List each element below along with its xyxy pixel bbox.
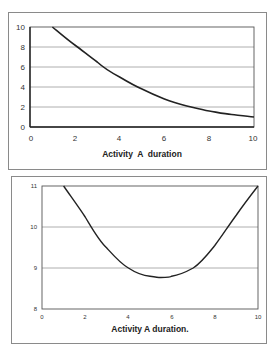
charts-canvas: 0 2 4 6 8 10 0 2 4 6 8 10 Activity A dur… xyxy=(0,0,276,355)
chart-top: 0 2 4 6 8 10 0 2 4 6 8 10 Activity A dur… xyxy=(16,23,258,159)
x-tick-label: 6 xyxy=(170,314,174,320)
x-tick-label: 4 xyxy=(126,314,130,320)
y-tick-label: 10 xyxy=(30,224,37,230)
y-tick-label: 8 xyxy=(34,306,38,312)
y-tick-label: 2 xyxy=(21,103,26,112)
plot-area-top xyxy=(30,27,254,127)
x-tick-label: 6 xyxy=(162,134,167,143)
x-tick-label: 0 xyxy=(29,134,34,143)
chart-bottom: 8 9 10 11 0 2 4 6 8 10 Activity A durati… xyxy=(12,177,267,344)
x-axis-title-top: Activity A duration xyxy=(102,149,182,159)
x-tick-label: 2 xyxy=(73,134,78,143)
y-tick-label: 11 xyxy=(31,183,38,189)
x-tick-label: 10 xyxy=(255,314,262,320)
x-tick-label: 8 xyxy=(213,314,217,320)
y-tick-label: 10 xyxy=(16,23,25,32)
x-tick-label: 0 xyxy=(40,314,44,320)
x-tick-label: 2 xyxy=(83,314,87,320)
x-tick-label: 8 xyxy=(207,134,212,143)
data-line-bottom xyxy=(64,186,258,278)
plot-area-bottom xyxy=(42,186,258,309)
y-tick-label: 0 xyxy=(21,123,26,132)
y-tick-label: 4 xyxy=(21,83,26,92)
chart-bottom-frame xyxy=(12,177,267,344)
x-tick-label: 4 xyxy=(117,134,122,143)
y-tick-label: 6 xyxy=(21,63,26,72)
data-line-top xyxy=(52,27,254,117)
y-tick-label: 8 xyxy=(21,43,26,52)
x-axis-title-bottom: Activity A duration. xyxy=(111,324,188,334)
y-tick-label: 9 xyxy=(34,265,38,271)
x-tick-label: 10 xyxy=(249,134,258,143)
